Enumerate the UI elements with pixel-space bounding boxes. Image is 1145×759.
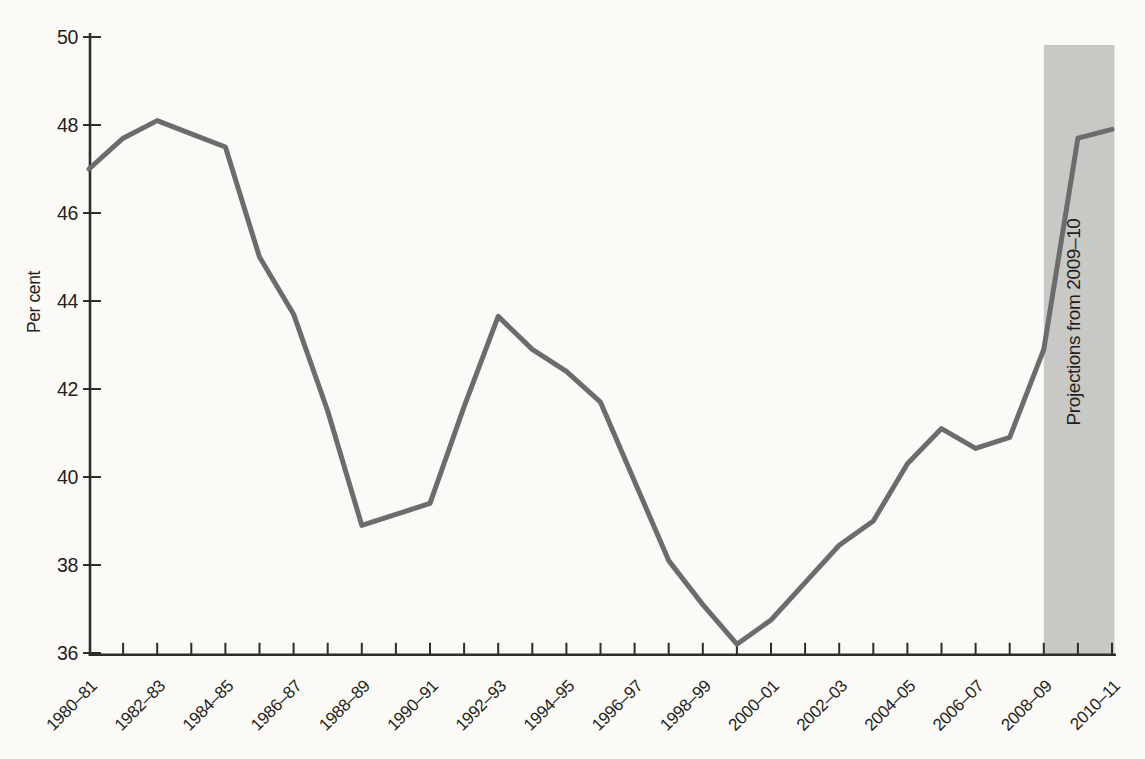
y-axis-title: Per cent bbox=[24, 270, 44, 333]
y-tick-label: 36 bbox=[57, 642, 78, 664]
line-chart-figure: 36384042444648501980–811982–831984–85198… bbox=[0, 0, 1145, 759]
line-chart: 36384042444648501980–811982–831984–85198… bbox=[0, 0, 1145, 759]
y-tick-label: 44 bbox=[57, 290, 78, 312]
y-tick-label: 48 bbox=[57, 114, 78, 136]
y-tick-label: 40 bbox=[57, 466, 78, 488]
y-tick-label: 46 bbox=[57, 202, 78, 224]
y-tick-label: 38 bbox=[57, 554, 78, 576]
y-tick-label: 50 bbox=[57, 26, 78, 48]
chart-page: 36384042444648501980–811982–831984–85198… bbox=[0, 0, 1145, 759]
projection-label: Projections from 2009–10 bbox=[1063, 219, 1084, 426]
y-tick-label: 42 bbox=[57, 378, 78, 400]
